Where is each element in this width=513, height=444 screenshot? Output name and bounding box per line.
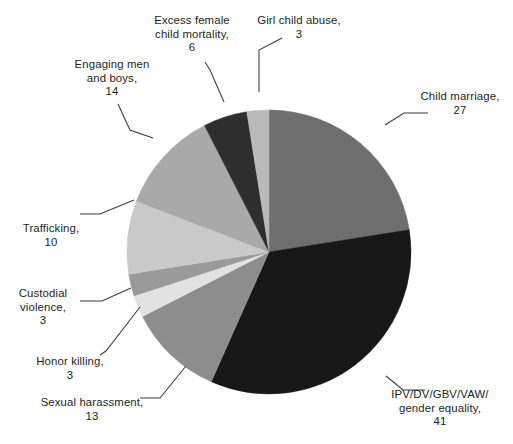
leader-line-engaging-men-and-boys — [118, 104, 153, 138]
slice-label-custodial-violence: Custodial violence, 3 — [2, 287, 84, 328]
slice-label-engaging-men-and-boys: Engaging men and boys, 14 — [62, 58, 162, 99]
leader-line-custodial-violence — [80, 288, 131, 301]
leader-line-sexual-harassment — [140, 366, 186, 398]
slice-label-child-marriage: Child marriage, 27 — [412, 90, 508, 117]
leader-line-girl-child-abuse — [259, 38, 282, 92]
slice-label-honor-killing: Honor killing, 3 — [22, 355, 118, 382]
slice-label-girl-child-abuse: Girl child abuse, 3 — [249, 14, 349, 41]
slice-label-trafficking: Trafficking, 10 — [8, 222, 94, 249]
slice-label-sexual-harassment: Sexual harassment, 13 — [30, 396, 154, 423]
leader-line-trafficking — [80, 200, 134, 214]
pie-chart-figure: Excess female child mortality, 6 Girl ch… — [0, 0, 513, 444]
slice-label-excess-female-child-mortality: Excess female child mortality, 6 — [140, 14, 244, 55]
leader-line-honor-killing — [100, 307, 140, 355]
pie-slice-group — [127, 110, 411, 394]
leader-line-excess-female-child-mortality — [205, 62, 224, 102]
slice-label-ipv-gender-equality: IPV/DV/GBV/VAW/ gender equality, 41 — [374, 388, 506, 429]
pie-slice-child-marriage — [269, 110, 409, 252]
